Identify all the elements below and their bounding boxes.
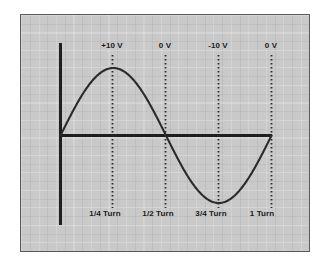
voltage-label-three-quarter-turn: -10 V	[208, 41, 228, 51]
voltage-label-quarter-turn: +10 V	[101, 41, 123, 51]
turn-label-three-quarter-turn: 3/4 Turn	[195, 209, 226, 219]
voltage-label-one-turn: 0 V	[265, 41, 277, 51]
voltage-label-half-turn: 0 V	[159, 41, 171, 51]
turn-label-one-turn: 1 Turn	[250, 209, 274, 219]
turn-label-half-turn: 1/2 Turn	[142, 209, 173, 219]
turn-label-quarter-turn: 1/4 Turn	[89, 209, 120, 219]
figure-canvas: +10 V 0 V -10 V 0 V 1/4 Turn 1/2 Turn 3/…	[0, 0, 329, 270]
